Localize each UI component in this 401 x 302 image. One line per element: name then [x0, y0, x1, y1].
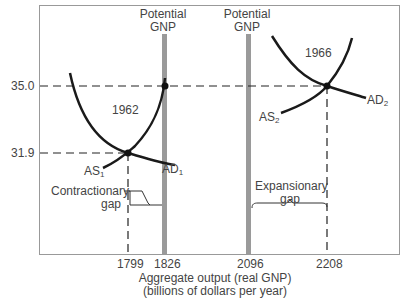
expansionary-gap-label: Expansionarygap [255, 180, 325, 206]
potential-gnp-1966-line [246, 34, 251, 254]
potential-point-1962 [162, 83, 169, 90]
x-axis-title: Aggregate output (real GNP)(billions of … [120, 272, 310, 298]
year-1962-label: 1962 [112, 104, 139, 117]
y-tick-319: 31.9 [11, 147, 34, 160]
as1-label: AS1 [84, 165, 104, 181]
x-tick-1826: 1826 [154, 258, 181, 271]
potential-gnp-label-1: PotentialGNP [138, 8, 188, 34]
potential-gnp-1962-line [162, 34, 167, 254]
x-tick-2096: 2096 [237, 258, 264, 271]
year-1966-label: 1966 [305, 47, 332, 60]
potential-gnp-label-2: PotentialGNP [222, 8, 272, 34]
contractionary-gap-label: Contractionarygap [51, 185, 121, 211]
as2-label: AS2 [259, 111, 279, 127]
x-tick-2208: 2208 [316, 258, 343, 271]
contractionary-pointer [128, 191, 150, 205]
equilibrium-1966 [324, 83, 331, 90]
ad1-label: AD1 [162, 163, 183, 179]
equilibrium-1962 [125, 150, 132, 157]
ad1-curve [70, 73, 175, 165]
x-tick-1799: 1799 [117, 258, 144, 271]
y-tick-35: 35.0 [11, 80, 34, 93]
ad2-label: AD2 [367, 94, 388, 110]
